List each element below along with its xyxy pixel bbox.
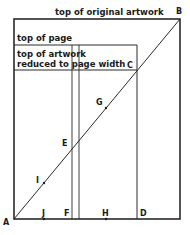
point-e-label: E (62, 139, 67, 148)
point-c-label: C (127, 61, 133, 70)
proportional-scaling-diagram: top of original artwork top of page top … (0, 0, 190, 235)
point-d-label: D (140, 209, 147, 218)
point-b-label: B (176, 7, 182, 16)
label-top-reduced-2: reduced to page width (17, 59, 125, 69)
point-i-label: I (36, 176, 39, 185)
point-a-label: A (3, 218, 10, 227)
point-g-dot (105, 107, 107, 109)
point-g-label: G (96, 98, 103, 107)
point-h-dot (105, 218, 107, 220)
label-top-page: top of page (17, 33, 72, 43)
point-j-label: J (41, 209, 45, 218)
point-i-dot (43, 182, 45, 184)
point-j-dot (43, 218, 45, 220)
label-top-original: top of original artwork (55, 7, 164, 17)
point-f-label: F (64, 209, 69, 218)
point-h-label: H (102, 209, 109, 218)
label-top-reduced-1: top of artwork (17, 49, 86, 59)
